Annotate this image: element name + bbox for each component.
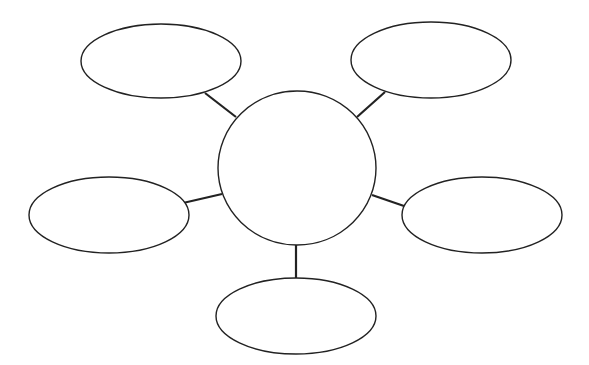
node-ellipse-top-left xyxy=(81,24,241,98)
spider-diagram xyxy=(0,0,589,365)
node-ellipse-middle-right xyxy=(402,177,562,253)
center-circle xyxy=(218,91,376,245)
node-group xyxy=(29,22,562,354)
diagram-canvas xyxy=(0,0,589,365)
node-ellipse-top-right xyxy=(351,22,511,98)
node-ellipse-middle-left xyxy=(29,177,189,253)
connector-middle-left xyxy=(183,194,222,203)
connector-top-left xyxy=(205,93,236,117)
connector-middle-right xyxy=(372,195,404,206)
node-ellipse-bottom xyxy=(216,278,376,354)
connector-top-right xyxy=(357,92,385,117)
